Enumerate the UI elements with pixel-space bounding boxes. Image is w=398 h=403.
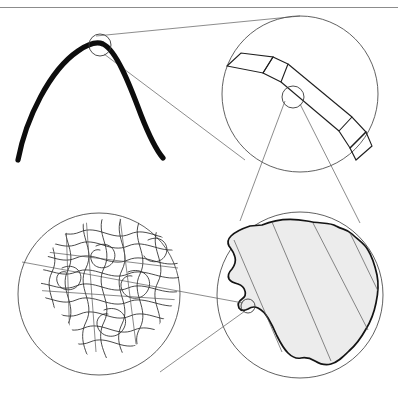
figure-root: Hierarchical multi-scale structure of a … — [0, 0, 398, 403]
hierarchical-fiber-diagram: Hierarchical multi-scale structure of a … — [0, 0, 398, 403]
